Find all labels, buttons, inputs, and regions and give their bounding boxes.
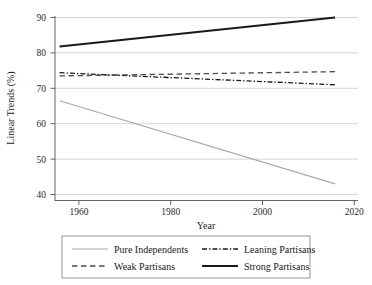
y-tick-label-80: 80 bbox=[37, 48, 47, 58]
chart-svg: 90 80 70 60 50 40 Linear Trends (%) 1960… bbox=[0, 0, 372, 285]
legend-label-weak-partisans: Weak Partisans bbox=[114, 261, 175, 272]
x-tick-label-2020: 2020 bbox=[345, 207, 364, 217]
y-tick-label-90: 90 bbox=[37, 13, 47, 23]
legend-label-pure-independents: Pure Independents bbox=[114, 244, 188, 255]
y-tick-label-60: 60 bbox=[37, 119, 47, 129]
y-axis-title: Linear Trends (%) bbox=[5, 71, 17, 144]
x-tick-label-1960: 1960 bbox=[69, 207, 88, 217]
x-tick-label-2000: 2000 bbox=[253, 207, 272, 217]
y-tick-label-40: 40 bbox=[37, 190, 47, 200]
x-axis-title: Year bbox=[197, 220, 216, 231]
legend: Pure Independents Leaning Partisans Weak… bbox=[62, 236, 315, 278]
x-tick-label-1980: 1980 bbox=[161, 207, 180, 217]
legend-label-strong-partisans: Strong Partisans bbox=[244, 261, 309, 272]
y-tick-label-50: 50 bbox=[37, 155, 47, 165]
plot-area-background bbox=[55, 16, 358, 199]
y-tick-label-70: 70 bbox=[37, 84, 47, 94]
legend-label-leaning-partisans: Leaning Partisans bbox=[244, 244, 315, 255]
legend-box bbox=[62, 236, 310, 278]
linear-trends-chart-figure: 90 80 70 60 50 40 Linear Trends (%) 1960… bbox=[0, 0, 372, 285]
